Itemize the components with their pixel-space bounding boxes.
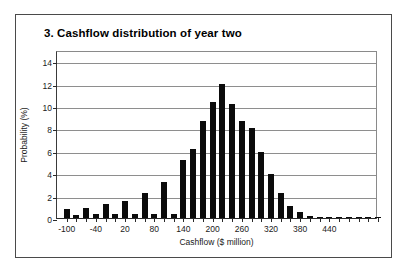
gridline [57, 130, 376, 131]
bar [122, 201, 128, 218]
bar [200, 121, 206, 218]
y-axis-tick-mark [53, 86, 57, 87]
x-axis-tick-mark [76, 218, 77, 222]
bar [287, 206, 293, 218]
x-axis-tick-mark [349, 218, 350, 222]
x-axis-tick-mark [115, 218, 116, 222]
y-axis-tick-mark [53, 108, 57, 109]
y-axis-tick-mark [53, 220, 57, 221]
x-axis-tick-mark [320, 218, 321, 222]
y-axis-tick-mark [53, 130, 57, 131]
y-axis-tick-mark [53, 175, 57, 176]
bar [190, 149, 196, 218]
gridline [57, 63, 376, 64]
x-axis-tick-label: 80 [150, 224, 159, 234]
x-axis-tick-mark [203, 218, 204, 222]
chart-figure: 3. Cashflow distribution of year two Pro… [15, 14, 392, 258]
bar [258, 152, 264, 218]
x-axis-tick-label: 440 [322, 224, 336, 234]
y-axis-tick-label: 0 [47, 215, 52, 225]
y-axis-tick-mark [53, 63, 57, 64]
x-axis-tick-mark [378, 218, 379, 222]
x-axis-tick-mark [67, 218, 68, 222]
x-axis-tick-mark [86, 218, 87, 222]
y-axis-tick-label: 2 [47, 193, 52, 203]
x-axis-tick-mark [329, 218, 330, 222]
x-axis-tick-mark [339, 218, 340, 222]
x-axis-tick-label: 20 [120, 224, 129, 234]
gridline [57, 198, 376, 199]
x-axis-tick-mark [154, 218, 155, 222]
x-axis-tick-mark [135, 218, 136, 222]
y-axis-tick-mark [53, 198, 57, 199]
bar [219, 84, 225, 218]
gridline [57, 153, 376, 154]
y-axis-tick-label: 8 [47, 125, 52, 135]
y-axis-title: Probability (%) [18, 51, 30, 219]
bar [249, 128, 255, 218]
x-axis-tick-mark [290, 218, 291, 222]
x-axis-tick-mark [106, 218, 107, 222]
x-axis-tick-mark [193, 218, 194, 222]
bar [103, 204, 109, 218]
bar [83, 208, 89, 218]
y-axis-tick-label: 14 [43, 58, 52, 68]
plot-area: 02468101214-100-402080140200260320380440 [56, 51, 377, 219]
bar [278, 193, 284, 218]
x-axis-title: Cashflow ($ million) [56, 237, 377, 247]
x-axis-tick-mark [232, 218, 233, 222]
bar [180, 160, 186, 218]
x-axis-tick-mark [368, 218, 369, 222]
x-axis-tick-mark [222, 218, 223, 222]
x-axis-tick-mark [300, 218, 301, 222]
x-axis-tick-mark [261, 218, 262, 222]
chart-title: 3. Cashflow distribution of year two [44, 27, 242, 39]
bar [268, 174, 274, 218]
x-axis-tick-mark [271, 218, 272, 222]
x-axis-tick-mark [310, 218, 311, 222]
x-axis-tick-label: 320 [264, 224, 278, 234]
y-axis-title-label: Probability (%) [19, 107, 29, 162]
gridline [57, 108, 376, 109]
x-axis-tick-mark [213, 218, 214, 222]
x-axis-tick-mark [242, 218, 243, 222]
x-axis-tick-label: 140 [176, 224, 190, 234]
x-axis-tick-mark [145, 218, 146, 222]
bar [229, 104, 235, 218]
x-axis-tick-mark [174, 218, 175, 222]
x-axis-tick-label: -100 [58, 224, 75, 234]
bar [142, 193, 148, 218]
bar [161, 182, 167, 218]
bar [64, 209, 70, 218]
bar [210, 102, 216, 218]
x-axis-tick-mark [281, 218, 282, 222]
y-axis-tick-label: 4 [47, 170, 52, 180]
y-axis-tick-label: 12 [43, 81, 52, 91]
x-axis-tick-label: -40 [90, 224, 102, 234]
gridline [57, 86, 376, 87]
x-axis-tick-mark [252, 218, 253, 222]
y-axis-tick-label: 10 [43, 103, 52, 113]
x-axis-tick-label: 260 [235, 224, 249, 234]
x-axis-tick-label: 200 [206, 224, 220, 234]
x-axis-tick-label: 380 [293, 224, 307, 234]
x-axis-tick-mark [359, 218, 360, 222]
x-axis-tick-mark [125, 218, 126, 222]
y-axis-tick-mark [53, 153, 57, 154]
x-axis-tick-mark [96, 218, 97, 222]
gridline [57, 175, 376, 176]
y-axis-tick-label: 6 [47, 148, 52, 158]
x-axis-tick-mark [164, 218, 165, 222]
bar [239, 121, 245, 218]
x-axis-tick-mark [183, 218, 184, 222]
